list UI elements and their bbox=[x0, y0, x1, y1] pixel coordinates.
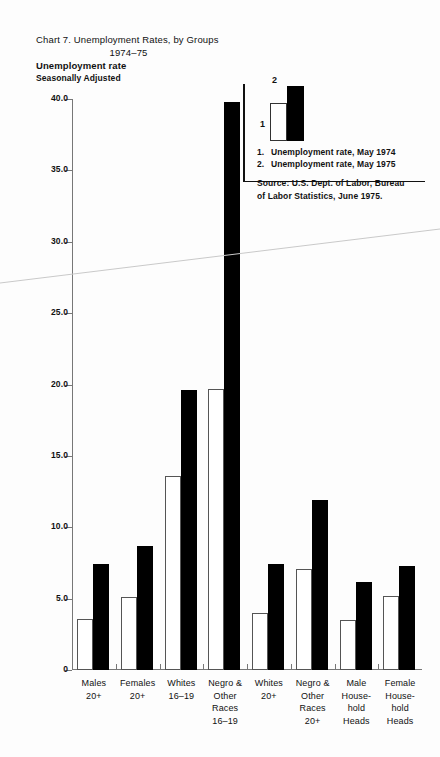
bar-1975 bbox=[312, 500, 328, 670]
y-axis-tick-label: 40.0 bbox=[51, 93, 68, 103]
legend-entry-1975: 2.Unemployment rate, May 1975 bbox=[257, 158, 396, 170]
bar-group bbox=[160, 99, 204, 670]
source-note-line-2: of Labor Statistics, June 1975. bbox=[257, 190, 432, 203]
bar-group bbox=[203, 99, 247, 670]
bar-1974 bbox=[252, 613, 268, 670]
source-note: Source: U.S. Dept. of Labor, Bureau of L… bbox=[257, 177, 432, 202]
category-label-line: House- bbox=[371, 690, 429, 703]
x-axis-group-separator bbox=[247, 664, 248, 670]
legend-entry-label-1: Unemployment rate, May 1974 bbox=[271, 147, 396, 157]
chart-subtitle: 1974–75 bbox=[36, 46, 221, 59]
bar-1974 bbox=[121, 597, 137, 670]
legend-entry-1974: 1.Unemployment rate, May 1974 bbox=[257, 146, 396, 158]
legend-frame-left bbox=[243, 84, 245, 182]
bar-1975 bbox=[399, 566, 415, 670]
title-block: Chart 7. Unemployment Rates, by Groups 1… bbox=[36, 33, 376, 84]
bar-1974 bbox=[383, 596, 399, 670]
x-axis-group-separator bbox=[291, 664, 292, 670]
legend-entry-label-2: Unemployment rate, May 1975 bbox=[271, 159, 396, 169]
legend-entry-number-2: 2. bbox=[257, 158, 271, 170]
y-axis-title: Unemployment rate bbox=[36, 59, 376, 72]
legend-swatch-number-2: 2 bbox=[272, 75, 277, 85]
bar-1974 bbox=[77, 619, 93, 670]
category-label-line: hold bbox=[371, 702, 429, 715]
category-label-line: Races bbox=[196, 702, 254, 715]
x-axis-group-separator bbox=[335, 664, 336, 670]
bar-1975 bbox=[268, 564, 284, 670]
x-axis-group-separator bbox=[116, 664, 117, 670]
bar-1975 bbox=[181, 390, 197, 670]
y-axis-tick-label: 25.0 bbox=[51, 307, 68, 317]
seasonal-adjustment-note: Seasonally Adjusted bbox=[36, 72, 376, 84]
chart-root: Chart 7. Unemployment Rates, by Groups 1… bbox=[0, 0, 440, 757]
y-axis-tick-label: 30.0 bbox=[51, 236, 68, 246]
bar-1974 bbox=[165, 476, 181, 670]
bar-1974 bbox=[208, 389, 224, 670]
bar-1974 bbox=[340, 620, 356, 670]
bar-group bbox=[116, 99, 160, 670]
bar-1975 bbox=[137, 546, 153, 670]
y-axis-tick-label: 20.0 bbox=[51, 379, 68, 389]
bar-1975 bbox=[356, 582, 372, 671]
y-axis-tick-label: 35.0 bbox=[51, 164, 68, 174]
bar-group bbox=[72, 99, 116, 670]
x-axis-group-separator bbox=[160, 664, 161, 670]
bar-1975 bbox=[224, 102, 240, 670]
category-label-line: 16–19 bbox=[196, 715, 254, 728]
y-axis-tick-label: 15.0 bbox=[51, 450, 68, 460]
y-axis-tick-label: 5.0 bbox=[56, 593, 68, 603]
category-label-line: Heads bbox=[371, 715, 429, 728]
x-axis-category-label: FemaleHouse-holdHeads bbox=[371, 677, 429, 727]
chart-title: Chart 7. Unemployment Rates, by Groups bbox=[36, 33, 376, 46]
source-note-line-1: Source: U.S. Dept. of Labor, Bureau bbox=[257, 177, 432, 190]
legend-swatch-number-1: 1 bbox=[260, 119, 265, 129]
x-axis-group-separator bbox=[203, 664, 204, 670]
bar-1974 bbox=[296, 569, 312, 670]
legend-swatch-1974 bbox=[270, 103, 287, 141]
y-axis-tick-label: 10.0 bbox=[51, 521, 68, 531]
x-axis-group-separator bbox=[378, 664, 379, 670]
y-axis-tick-label: 0 bbox=[63, 664, 68, 674]
category-label-line: Female bbox=[371, 677, 429, 690]
legend-swatch-1975 bbox=[287, 86, 304, 141]
bar-1975 bbox=[93, 564, 109, 670]
legend-entry-number-1: 1. bbox=[257, 146, 271, 158]
